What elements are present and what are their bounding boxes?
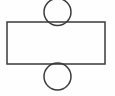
- bottom-circle: [44, 63, 71, 90]
- rectangle: [7, 22, 105, 64]
- figure-canvas: [0, 0, 115, 96]
- line-drawing-svg: [0, 0, 115, 96]
